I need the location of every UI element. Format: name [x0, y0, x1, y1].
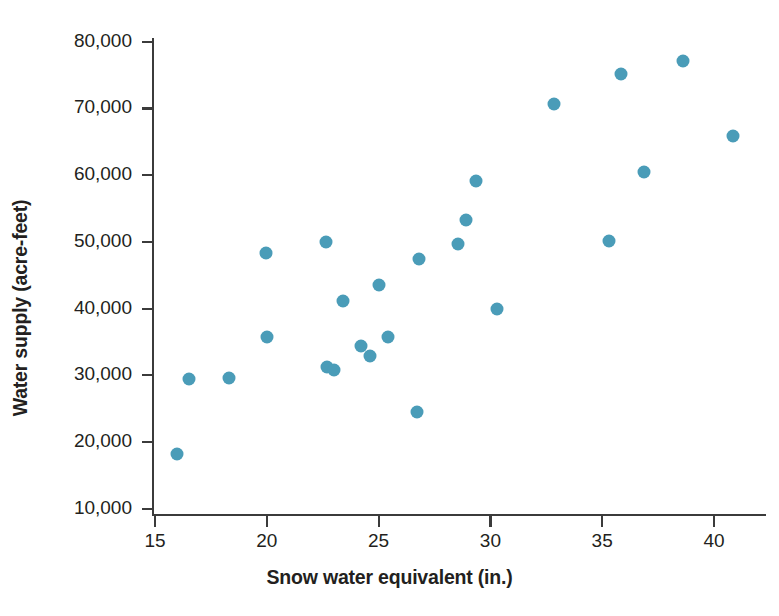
plot-area [155, 42, 760, 509]
y-axis-tick [142, 374, 153, 376]
y-axis-tick [142, 308, 153, 310]
x-axis-title: Snow water equivalent (in.) [0, 566, 779, 589]
data-point [363, 349, 376, 362]
y-axis-tick-label: 20,000 [12, 430, 132, 452]
y-axis-tick-label: 60,000 [12, 163, 132, 185]
data-point [182, 373, 195, 386]
data-point [459, 213, 472, 226]
data-point [320, 236, 333, 249]
data-point [491, 303, 504, 316]
data-point [222, 372, 235, 385]
y-axis-tick [142, 174, 153, 176]
x-axis-tick-label: 35 [572, 530, 632, 552]
data-point [615, 68, 628, 81]
data-point [451, 237, 464, 250]
data-point [412, 253, 425, 266]
x-axis-tick [378, 516, 380, 527]
x-axis-tick-label: 40 [684, 530, 744, 552]
x-axis-tick [154, 516, 156, 527]
y-axis-tick-label: 50,000 [12, 230, 132, 252]
x-axis-tick-label: 30 [460, 530, 520, 552]
y-axis-tick-label: 80,000 [12, 30, 132, 52]
data-point [676, 55, 689, 68]
y-axis-tick-label: 70,000 [12, 96, 132, 118]
y-axis-tick [142, 107, 153, 109]
data-point [336, 295, 349, 308]
data-point [327, 363, 340, 376]
y-axis-tick [142, 508, 153, 510]
x-axis-tick-label: 20 [237, 530, 297, 552]
data-point [548, 98, 561, 111]
data-point [469, 175, 482, 188]
scatter-plot-figure: Water supply (acre-feet) Snow water equi… [0, 0, 779, 616]
data-point [259, 247, 272, 260]
y-axis-tick-label: 30,000 [12, 363, 132, 385]
x-axis-tick-label: 15 [125, 530, 185, 552]
data-point [260, 331, 273, 344]
data-point [727, 130, 740, 143]
data-point [410, 405, 423, 418]
x-axis-tick [713, 516, 715, 527]
x-axis-tick [266, 516, 268, 527]
data-point [381, 330, 394, 343]
x-axis-line [152, 514, 766, 516]
data-point [171, 447, 184, 460]
y-axis-tick [142, 241, 153, 243]
y-axis-tick-label: 40,000 [12, 297, 132, 319]
x-axis-tick-label: 25 [349, 530, 409, 552]
y-axis-tick [142, 41, 153, 43]
y-axis-tick [142, 441, 153, 443]
data-point [602, 235, 615, 248]
x-axis-tick [601, 516, 603, 527]
x-axis-tick [489, 516, 491, 527]
data-point [372, 279, 385, 292]
data-point [637, 166, 650, 179]
y-axis-tick-label: 10,000 [12, 497, 132, 519]
